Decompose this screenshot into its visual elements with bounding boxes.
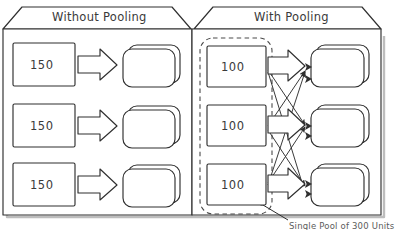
diagram-svg [0, 0, 395, 230]
left-source-boxes [13, 43, 75, 206]
right-target-stacks [311, 45, 369, 206]
diagram-canvas: Without Pooling With Pooling 150 150 150… [0, 0, 395, 230]
right-source-boxes [207, 46, 266, 205]
left-target-stacks [123, 45, 180, 207]
